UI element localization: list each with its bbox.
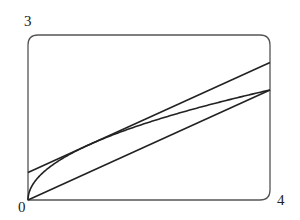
x-max-label: 4: [277, 193, 285, 208]
y-max-label: 3: [24, 14, 32, 29]
origin-label: 0: [18, 200, 26, 215]
secant-line: [28, 90, 270, 200]
plot-area: [0, 0, 300, 220]
tangent-line: [28, 63, 270, 173]
